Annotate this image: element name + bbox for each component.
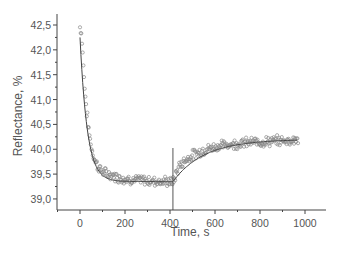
- data-point: [207, 143, 210, 146]
- y-tick-label: 39,0: [31, 193, 52, 205]
- y-axis-title: Reflectance, %: [11, 75, 25, 156]
- axes: 39,039,540,040,541,041,542,042,502004006…: [31, 14, 326, 229]
- x-axis-title: Time, s: [171, 225, 210, 239]
- y-tick-label: 40,5: [31, 118, 52, 130]
- data-point: [82, 64, 85, 67]
- y-tick-label: 39,5: [31, 168, 52, 180]
- x-tick-label: 800: [251, 217, 269, 229]
- data-points: [78, 26, 299, 188]
- y-tick-label: 40,0: [31, 143, 52, 155]
- x-tick-label: 0: [77, 217, 83, 229]
- y-tick-label: 42,0: [31, 44, 52, 56]
- reflectance-chart: 39,039,540,040,541,041,542,042,502004006…: [0, 0, 341, 255]
- x-tick-label: 200: [116, 217, 134, 229]
- data-point: [86, 111, 89, 114]
- data-point: [81, 51, 84, 54]
- data-point: [245, 136, 248, 139]
- data-point: [201, 147, 204, 150]
- y-tick-label: 41,0: [31, 94, 52, 106]
- y-tick-label: 41,5: [31, 69, 52, 81]
- y-tick-label: 42,5: [31, 19, 52, 31]
- x-tick-label: 1000: [293, 217, 317, 229]
- data-point: [78, 26, 81, 29]
- data-point: [147, 175, 150, 178]
